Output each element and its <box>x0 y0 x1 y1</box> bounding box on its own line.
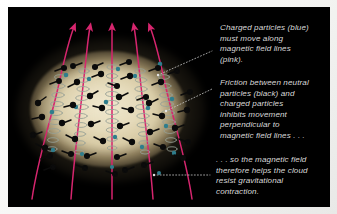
neutral-particle <box>120 60 131 65</box>
neutral-particle <box>41 154 52 159</box>
charged-particle <box>164 124 168 128</box>
neutral-particle <box>94 137 105 143</box>
neutral-particle <box>122 108 133 113</box>
leader-endpoint <box>165 110 167 112</box>
neutral-particle <box>31 132 42 137</box>
charged-particle <box>146 106 151 111</box>
neutral-particle <box>174 155 185 160</box>
neutral-particle <box>181 90 192 95</box>
neutral-particle <box>71 63 82 68</box>
neutral-particle <box>173 125 184 130</box>
charged-particle <box>104 100 109 105</box>
field-line-4 <box>134 27 153 199</box>
caption-charged-particles: Charged particles (blue) must move along… <box>220 23 330 65</box>
field-line-2 <box>71 27 90 199</box>
neutral-particle <box>123 138 134 144</box>
charged-particle <box>50 110 55 115</box>
neutral-particle <box>178 108 189 113</box>
neutral-particle <box>115 154 126 159</box>
neutral-particle <box>121 74 132 79</box>
leader-endpoint <box>153 174 155 176</box>
charged-particle <box>51 148 55 152</box>
charged-particle <box>116 67 120 71</box>
neutral-particle <box>32 115 44 120</box>
neutral-particle <box>66 135 77 141</box>
neutral-particle <box>62 151 73 156</box>
neutral-particle <box>76 165 87 170</box>
neutral-particle <box>44 165 55 170</box>
neutral-particle <box>55 66 66 71</box>
neutral-particle <box>64 103 75 108</box>
neutral-particle <box>149 66 160 71</box>
helix-4 <box>135 69 150 154</box>
charged-particle <box>113 135 117 139</box>
neutral-particle <box>142 162 153 167</box>
charged-particle <box>87 77 91 81</box>
neutral-particle <box>36 97 46 105</box>
charged-particle <box>170 97 175 102</box>
helix-1 <box>47 75 66 152</box>
neutral-particle <box>89 121 100 126</box>
neutral-particle <box>85 153 96 158</box>
illustration-plate: Charged particles (blue) must move along… <box>8 7 330 207</box>
figure-panel: Charged particles (blue) must move along… <box>0 0 337 214</box>
caption-friction: Friction between neutral particles (blac… <box>220 78 330 142</box>
charged-particle <box>157 171 161 175</box>
neutral-particle <box>68 80 79 87</box>
charged-particle <box>110 165 114 169</box>
neutral-particle <box>50 79 61 84</box>
neutral-particle <box>92 72 103 77</box>
caption-magnetic-support: . . . so the magnetic field therefore he… <box>216 155 330 197</box>
charged-particle <box>140 145 144 149</box>
neutral-particle <box>152 80 163 85</box>
neutral-particle <box>154 144 165 149</box>
charged-particle <box>64 73 69 78</box>
neutral-particle <box>93 106 104 111</box>
neutral-particle <box>60 120 71 125</box>
charged-particle <box>80 152 84 156</box>
neutral-particle <box>117 93 128 99</box>
neutral-particle <box>88 91 98 98</box>
neutral-particle <box>148 129 159 134</box>
neutral-particle <box>93 63 103 69</box>
neutral-particle <box>147 99 158 105</box>
neutral-particle <box>153 114 164 119</box>
charged-particle <box>133 74 137 78</box>
leader-endpoint <box>157 74 159 76</box>
leader-line-1 <box>158 51 212 75</box>
field-line-5 <box>150 27 192 199</box>
neutral-particle <box>118 123 129 128</box>
neutral-particle <box>123 167 134 172</box>
